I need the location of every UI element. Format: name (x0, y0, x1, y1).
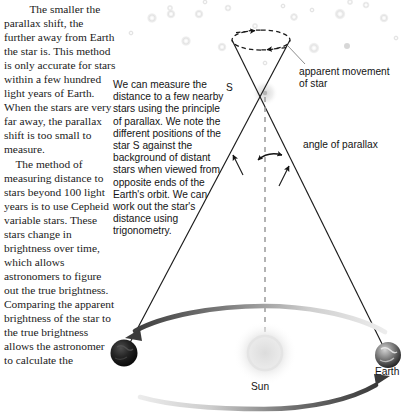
label-sun: Sun (251, 381, 269, 393)
angle-of-parallax-arc (258, 154, 282, 160)
background-star-field (128, 0, 399, 66)
earth-globe-right (375, 342, 401, 368)
apparent-movement-ellipse (232, 30, 290, 50)
middle-text-column: We can measure the distance to a few nea… (113, 79, 225, 238)
left-text-column: The smaller the parallax shift, the furt… (4, 2, 116, 367)
label-star-s: S (226, 82, 233, 94)
sight-line-arrowheads (233, 155, 289, 186)
star-core (263, 91, 267, 95)
label-angle-of-parallax: angle of parallax (303, 139, 401, 151)
parallax-diagram-page: The smaller the parallax shift, the furt… (0, 0, 405, 412)
sun-glow (233, 321, 297, 385)
label-earth: Earth (375, 366, 399, 378)
label-apparent-movement-of-star: apparent movement of star (299, 66, 403, 90)
apparent-movement-leader-line (288, 46, 305, 64)
